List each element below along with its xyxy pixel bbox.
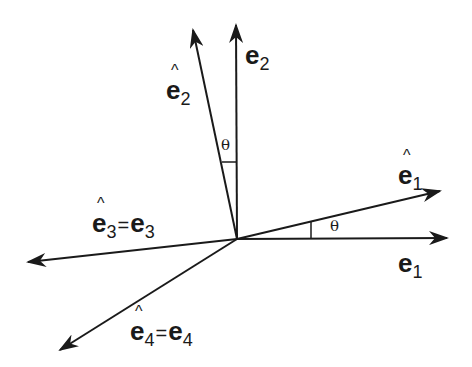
theta-vertical-label: θ <box>221 138 230 153</box>
e4-hat-equals-e4-label: e4=e4 <box>130 318 193 349</box>
e2-hat-vector <box>193 30 237 239</box>
e2-label: e2 <box>245 42 269 73</box>
e2-hat-label: e2 <box>166 77 190 108</box>
basis-vector-diagram: e2 e2 θ e1 θ e1 e3=e3 e4=e4 <box>0 0 472 367</box>
e3-hat-equals-e3-label: e3=e3 <box>92 210 155 241</box>
e1-hat-label: e1 <box>398 162 422 193</box>
e1-vector <box>237 238 447 239</box>
theta-horizontal-label: θ <box>330 219 339 234</box>
e1-label: e1 <box>398 250 422 281</box>
e2-vector <box>236 25 237 239</box>
